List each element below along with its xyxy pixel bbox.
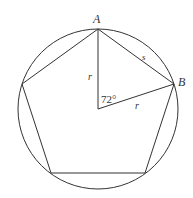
radius-label-diagonal: r xyxy=(135,100,139,111)
vertex-a-label: A xyxy=(92,12,101,26)
radius-label-vertical: r xyxy=(88,71,92,82)
vertex-b-label: B xyxy=(178,75,186,89)
side-label: s xyxy=(142,52,146,62)
pentagon-diagram: A B r r s 72° xyxy=(0,0,193,198)
central-angle-label: 72° xyxy=(101,93,116,105)
